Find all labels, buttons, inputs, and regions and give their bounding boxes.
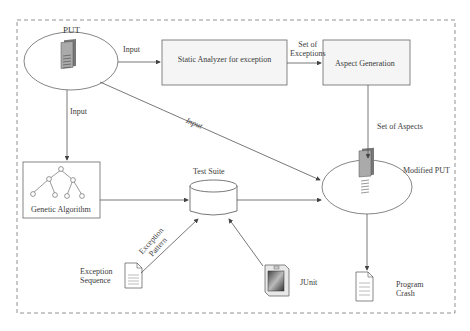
exception-sequence-label: Exception Sequence [80,267,112,285]
edge-label-analyzer-to-aspect: Set of Exceptions [290,40,326,58]
document-stack-icon [61,39,76,69]
modified-put-label: Modified PUT [403,166,450,175]
exception-sequence-document-icon [125,263,142,288]
edge-junit-to-testsuite [229,219,263,266]
edge-label-aspect-to-modified: Set of Aspects [377,122,423,131]
put-label: PUT [63,26,80,35]
edge-label-put-to-ga: Input [70,107,87,116]
program-crash-label: Program Crash [396,280,424,298]
program-crash-document-icon [356,272,373,301]
edge-label-put-to-analyzer: Input [123,45,140,54]
aspect-generation-label: Aspect Generation [335,59,395,68]
junit-label: JUnit [300,278,317,287]
genetic-algorithm-label: Genetic Algorithm [31,205,91,214]
test-suite-cylinder [190,180,237,215]
junit-icon [265,265,289,296]
static-analyzer-label: Static Analyzer for exception [172,55,277,64]
test-suite-label: Test Suite [193,167,225,176]
edge-put-to-modified [100,82,320,180]
modified-put-node [322,148,412,214]
put-node [24,32,118,90]
